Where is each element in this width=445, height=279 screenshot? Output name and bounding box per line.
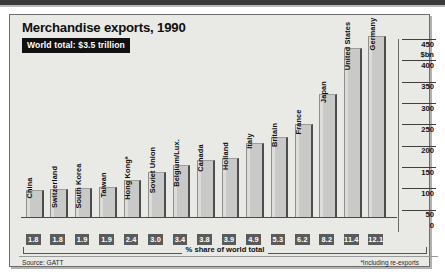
y-tick-label: 50 <box>404 211 434 219</box>
share-value: 4.9 <box>246 234 261 245</box>
bar-highlight <box>247 144 250 217</box>
y-tick-label: 200 <box>404 147 434 155</box>
footer-divider <box>19 256 438 257</box>
bar-south-korea: South Korea <box>75 188 93 217</box>
y-tick-label: 100 <box>404 190 434 198</box>
bar-canada: Canada <box>197 160 215 217</box>
share-value: 1.9 <box>99 234 114 245</box>
bar-highlight <box>345 49 348 217</box>
bar-label: Britain <box>270 123 279 147</box>
bar-highlight <box>320 95 323 217</box>
share-value: 8.2 <box>319 234 334 245</box>
share-value-row: 1.81.81.91.92.43.03.43.83.94.95.36.28.21… <box>21 234 397 245</box>
share-value: 1.8 <box>26 234 41 245</box>
bar-belgium-lux: Belgium/Lux. <box>173 165 191 217</box>
bar-label: Taiwan <box>99 173 108 198</box>
footnote-label: *Including re-exports <box>360 259 419 266</box>
share-value: 5.3 <box>271 234 286 245</box>
x-axis-line <box>21 217 397 218</box>
bar-label: France <box>294 109 303 134</box>
y-tick-label: 300 <box>404 105 434 113</box>
share-value: 12.1 <box>368 234 383 245</box>
brace-right <box>268 247 427 254</box>
chart-title: Merchandise exports, 1990 <box>22 20 186 35</box>
share-value: 3.0 <box>148 234 163 245</box>
y-axis-unit-label: $bn <box>404 50 434 59</box>
bar-label: China <box>25 177 34 198</box>
bar-label: South Korea <box>74 164 83 209</box>
bar-label: Canada <box>196 144 205 171</box>
bar-label: Holland <box>221 142 230 170</box>
bar-hong-kong: Hong Kong* <box>124 180 142 217</box>
y-tick-label: 150 <box>404 169 434 177</box>
bar-label: Switzerland <box>50 166 59 208</box>
bar-holland: Holland <box>222 158 240 217</box>
x-axis-label: % share of world total <box>182 245 268 254</box>
share-value: 1.8 <box>50 234 65 245</box>
bar-italy: Italy <box>246 143 264 217</box>
share-value: 3.9 <box>222 234 237 245</box>
source-label: Source: GATT <box>22 259 64 266</box>
bar-highlight <box>296 125 299 217</box>
bar-label: Hong Kong* <box>123 156 132 200</box>
bar-highlight <box>272 138 275 217</box>
bar-label: Belgium/Lux. <box>172 139 181 187</box>
bar-switzerland: Switzerland <box>50 189 68 217</box>
bar-taiwan: Taiwan <box>99 187 117 217</box>
y-tick-label: 350 <box>404 83 434 91</box>
bar-japan: Japan <box>319 94 337 217</box>
bar-china: China <box>26 190 44 217</box>
bar-highlight <box>369 37 372 217</box>
share-value: 3.4 <box>173 234 188 245</box>
chart-panel: Merchandise exports, 1990 World total: $… <box>9 14 430 267</box>
brace-left <box>23 247 182 254</box>
share-value: 2.4 <box>124 234 139 245</box>
y-axis-line <box>398 39 399 232</box>
share-value: 3.8 <box>197 234 212 245</box>
plot-area: ChinaSwitzerlandSouth KoreaTaiwanHong Ko… <box>21 39 388 217</box>
share-value: 6.2 <box>295 234 310 245</box>
bar-soviet-union: Soviet Union <box>148 172 166 217</box>
share-value: 1.9 <box>75 234 90 245</box>
bar-label: Germany <box>368 18 377 51</box>
y-tick-label: 0 <box>404 222 434 230</box>
bar-germany: Germany <box>368 36 386 217</box>
bar-united-states: United States <box>344 48 362 217</box>
bar-label: United States <box>343 22 352 71</box>
bar-france: France <box>295 124 313 217</box>
bar-britain: Britain <box>271 137 289 217</box>
chart-figure: Merchandise exports, 1990 World total: $… <box>0 0 445 279</box>
bar-label: Soviet Union <box>148 146 157 192</box>
y-tick-label: 400 <box>404 62 434 70</box>
share-value: 11.4 <box>344 234 359 245</box>
top-rule-highlight <box>0 5 445 7</box>
y-axis: 050100150200250300350400450$bn <box>400 39 436 231</box>
y-tick-label: 250 <box>404 126 434 134</box>
bar-label: Italy <box>245 134 254 149</box>
y-tick-label: 450 <box>404 41 434 49</box>
bar-label: Japan <box>319 81 328 103</box>
